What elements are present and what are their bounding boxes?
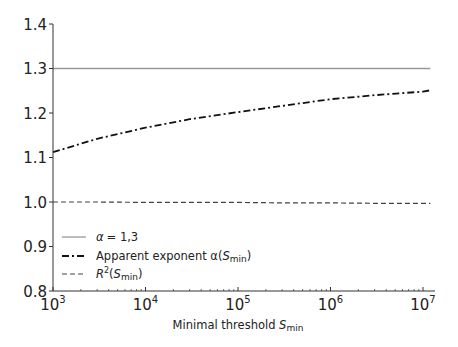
legend: α= 1,3 Apparent exponent α(Smin) R2(Smin… <box>62 230 251 282</box>
y-tick-label: 1.4 <box>23 16 47 34</box>
plot-lines <box>53 69 430 204</box>
y-tick-label: 0.9 <box>23 238 47 256</box>
x-tick-label: 105 <box>225 294 250 314</box>
x-axis-label: Minimal threshold Smin <box>173 318 304 333</box>
series-apparent-exponent <box>53 90 430 152</box>
x-tick-label: 106 <box>318 294 343 314</box>
y-tick-label: 1.1 <box>23 149 47 167</box>
chart: 0.80.91.01.11.21.31.4 103104105106107 Mi… <box>0 0 458 347</box>
series-r-squared <box>53 202 430 203</box>
legend-label-apparent-exponent: Apparent exponent α(Smin) <box>96 249 251 264</box>
x-tick-label: 104 <box>133 294 158 314</box>
y-tick-label: 1.3 <box>23 60 47 78</box>
y-axis-ticks: 0.80.91.01.11.21.31.4 <box>23 16 53 301</box>
legend-label-r-squared: R2(Smin) <box>96 266 142 282</box>
x-tick-label: 103 <box>40 294 65 314</box>
y-tick-label: 1.2 <box>23 105 47 123</box>
legend-label-alpha: α= 1,3 <box>96 230 138 244</box>
x-tick-label: 107 <box>410 294 435 314</box>
y-tick-label: 1.0 <box>23 194 47 212</box>
